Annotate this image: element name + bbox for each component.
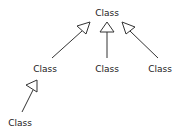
edge-mid-center-to-top	[100, 22, 114, 58]
class-node-mid-left: Class	[33, 64, 57, 74]
edge-mid-left-to-top	[52, 22, 90, 58]
inheritance-diagram: Class Class Class Class Class	[0, 0, 180, 134]
edge-bottom-left-to-mid-left	[22, 80, 37, 112]
class-node-mid-center: Class	[95, 64, 119, 74]
class-node-mid-right: Class	[148, 64, 172, 74]
inheritance-arrow-icon	[100, 22, 114, 32]
class-node-bottom-left: Class	[8, 118, 32, 128]
inheritance-arrow-icon	[122, 22, 135, 34]
edge-mid-right-to-top	[122, 22, 158, 58]
inheritance-arrow-icon	[26, 80, 37, 92]
class-node-top: Class	[95, 8, 119, 18]
inheritance-arrow-icon	[77, 22, 90, 34]
